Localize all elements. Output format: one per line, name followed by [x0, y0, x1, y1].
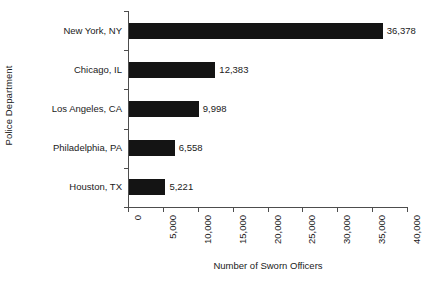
x-tick	[407, 207, 408, 212]
bar	[129, 23, 383, 39]
x-tick	[268, 207, 269, 212]
bar-value-label: 12,383	[219, 65, 248, 75]
bar-chart: Police Department New York, NYChicago, I…	[0, 0, 432, 284]
category-label: Chicago, IL	[74, 65, 122, 75]
bar-value-label: 6,558	[179, 143, 203, 153]
category-axis-labels: New York, NYChicago, ILLos Angeles, CAPh…	[22, 11, 126, 207]
x-tick-label: 10,000	[202, 215, 213, 244]
bar-value-label: 9,998	[203, 104, 227, 114]
bar	[129, 140, 175, 156]
y-axis-title-text: Police Department	[4, 65, 15, 145]
x-tick	[233, 207, 234, 212]
y-axis-title: Police Department	[0, 0, 18, 210]
x-tick-label: 25,000	[306, 215, 317, 244]
y-tick	[124, 11, 128, 12]
x-tick	[302, 207, 303, 212]
x-tick-label: 30,000	[341, 215, 352, 244]
x-tick-label: 35,000	[376, 215, 387, 244]
bar	[129, 101, 199, 117]
bar	[129, 179, 165, 195]
category-label: Houston, TX	[69, 182, 122, 192]
y-tick	[124, 89, 128, 90]
x-tick-label: 40,000	[411, 215, 422, 244]
bar	[129, 62, 215, 78]
x-tick	[163, 207, 164, 212]
y-tick	[124, 129, 128, 130]
x-tick-label: 5,000	[167, 215, 178, 239]
x-tick-label: 15,000	[237, 215, 248, 244]
x-tick	[372, 207, 373, 212]
y-tick	[124, 168, 128, 169]
x-axis-title: Number of Sworn Officers	[128, 260, 408, 271]
bar-value-label: 5,221	[169, 182, 193, 192]
category-label: Philadelphia, PA	[53, 143, 122, 153]
x-tick	[128, 207, 129, 212]
x-tick	[337, 207, 338, 212]
x-tick-label: 0	[132, 215, 143, 220]
plot-area: 36,37812,3839,9986,5585,221	[128, 11, 407, 207]
x-tick	[198, 207, 199, 212]
y-tick	[124, 50, 128, 51]
x-tick-label: 20,000	[272, 215, 283, 244]
category-label: Los Angeles, CA	[52, 104, 122, 114]
category-label: New York, NY	[63, 26, 122, 36]
bar-value-label: 36,378	[387, 26, 416, 36]
